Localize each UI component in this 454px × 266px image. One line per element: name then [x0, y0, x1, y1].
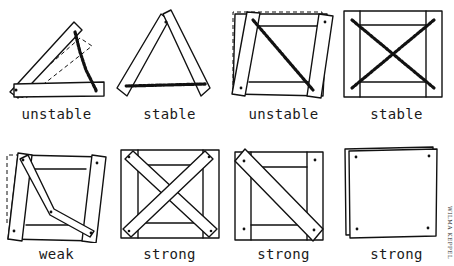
open-triangle-drawing: [0, 0, 113, 105]
single-chain-frame-drawing: [227, 0, 340, 105]
label-unstable: unstable: [0, 106, 113, 122]
label-stable: stable: [113, 106, 226, 122]
panel-frame-cross-chain: stable: [340, 0, 453, 133]
panel-frame-one-board: strong: [227, 133, 340, 266]
label-strong-2: strong: [227, 246, 340, 262]
label-stable-2: stable: [340, 106, 453, 122]
panel-frame-bent-board: weak: [0, 133, 113, 266]
bent-board-frame-drawing: [0, 133, 113, 243]
crossed-chain-frame-drawing: [340, 0, 453, 105]
label-strong-3: strong: [340, 246, 453, 262]
sheet-panel-frame-drawing: [340, 133, 453, 243]
panel-triangle-closed: stable: [113, 0, 226, 133]
panel-triangle-open: unstable: [0, 0, 113, 133]
panel-frame-cross-boards: strong: [113, 133, 226, 266]
single-board-frame-drawing: [227, 133, 340, 243]
label-unstable-2: unstable: [227, 106, 340, 122]
label-strong: strong: [113, 246, 226, 262]
panel-frame-sheet: strong: [340, 133, 453, 266]
artist-credit: WILMA KEPPEL: [447, 206, 453, 259]
label-weak: weak: [0, 246, 113, 262]
crossed-boards-frame-drawing: [113, 133, 226, 243]
closed-triangle-drawing: [113, 0, 226, 105]
panel-frame-one-chain: unstable: [227, 0, 340, 133]
